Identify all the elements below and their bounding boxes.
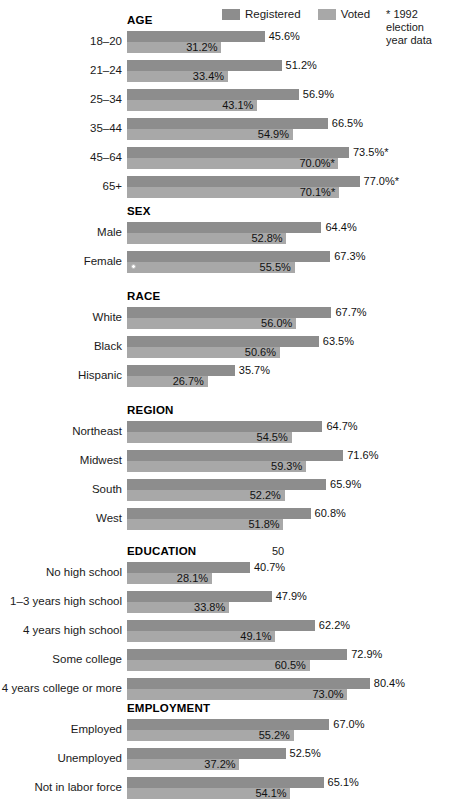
legend-footnote: * 1992 election year data (386, 8, 455, 47)
bar-value-registered: 71.6% (347, 449, 378, 461)
bar-value-voted: 52.2% (250, 489, 281, 501)
legend-swatch-registered-icon (222, 9, 240, 20)
category-label: Midwest (0, 454, 122, 466)
bar-value-registered: 72.9% (351, 648, 382, 660)
category-label: Northeast (0, 425, 122, 437)
bar-value-voted: 31.2% (186, 41, 217, 53)
section-header-education: EDUCATION (127, 545, 196, 557)
bar-value-registered: 63.5% (323, 335, 354, 347)
legend-entry-registered: Registered (222, 8, 301, 20)
section-header-race: RACE (127, 290, 160, 302)
category-label: Hispanic (0, 369, 122, 381)
legend-label-registered: Registered (245, 8, 301, 20)
bar-value-registered: 73.5%* (353, 146, 388, 158)
bar-value-voted: 50.6% (245, 346, 276, 358)
section-header-sex: SEX (127, 205, 151, 217)
category-label: White (0, 311, 122, 323)
bar-value-registered: 67.7% (335, 306, 366, 318)
bar-value-registered: 45.6% (269, 30, 300, 42)
bar-value-voted: 55.5% (260, 261, 291, 273)
bar-value-registered: 60.8% (315, 507, 346, 519)
bar-registered (127, 222, 321, 233)
category-label: 21–24 (0, 64, 122, 76)
section-header-employment: EMPLOYMENT (127, 702, 210, 714)
legend-swatch-voted-icon (318, 9, 336, 20)
category-label: Female (0, 255, 122, 267)
bar-registered (127, 118, 328, 129)
bar-registered (127, 307, 331, 318)
bar-registered (127, 620, 315, 631)
bar-registered (127, 508, 311, 519)
bar-value-voted: 43.1% (222, 99, 253, 111)
bar-value-registered: 65.1% (328, 776, 359, 788)
bar-value-voted: 59.3% (271, 460, 302, 472)
category-label: 35–44 (0, 122, 122, 134)
bar-value-registered: 80.4% (374, 677, 405, 689)
bar-value-voted: 60.5% (275, 659, 306, 671)
bar-value-voted: 26.7% (173, 375, 204, 387)
voting-statistics-chart: Registered Voted * 1992 election year da… (0, 0, 455, 809)
bar-value-voted: 70.1%* (300, 186, 335, 198)
category-label: 4 years high school (0, 624, 122, 636)
bar-value-registered: 66.5% (332, 117, 363, 129)
bar-registered (127, 421, 322, 432)
bar-value-voted: 28.1% (177, 572, 208, 584)
section-header-region: REGION (127, 404, 174, 416)
bar-value-voted: 51.8% (248, 518, 279, 530)
bar-value-registered: 51.2% (286, 59, 317, 71)
category-label: No high school (0, 566, 122, 578)
bar-value-registered: 65.9% (330, 478, 361, 490)
category-label: Male (0, 226, 122, 238)
bar-registered (127, 251, 330, 262)
bar-value-voted: 33.8% (194, 601, 225, 613)
bar-value-registered: 64.7% (326, 420, 357, 432)
category-label: 4 years college or more (0, 682, 122, 694)
category-label: South (0, 483, 122, 495)
bar-value-registered: 64.4% (325, 221, 356, 233)
legend-entry-voted: Voted (318, 8, 370, 20)
bar-registered (127, 89, 299, 100)
bar-registered (127, 336, 319, 347)
bar-registered (127, 649, 347, 660)
bar-value-voted: 33.4% (193, 70, 224, 82)
section-header-age: AGE (127, 14, 153, 26)
category-label: Black (0, 340, 122, 352)
bar-value-registered: 47.9% (276, 590, 307, 602)
category-label: 18–20 (0, 35, 122, 47)
bar-value-voted: 55.2% (259, 729, 290, 741)
scan-artifact-speck (131, 264, 136, 269)
bar-value-voted: 49.1% (240, 630, 271, 642)
legend-label-voted: Voted (341, 8, 370, 20)
bar-registered (127, 450, 343, 461)
bar-value-registered: 40.7% (254, 561, 285, 573)
bar-value-registered: 62.2% (319, 619, 350, 631)
axis-tick-label: 50 (272, 545, 284, 557)
bar-value-registered: 52.5% (290, 747, 321, 759)
bar-value-voted: 54.5% (257, 431, 288, 443)
bar-value-voted: 54.9% (258, 128, 289, 140)
bar-value-voted: 73.0% (312, 688, 343, 700)
category-label: 45–64 (0, 151, 122, 163)
bar-registered (127, 719, 329, 730)
bar-registered (127, 777, 324, 788)
bar-value-voted: 70.0%* (299, 157, 334, 169)
category-label: Unemployed (0, 752, 122, 764)
bar-value-registered: 35.7% (239, 364, 270, 376)
bar-value-registered: 67.3% (334, 250, 365, 262)
bar-value-registered: 56.9% (303, 88, 334, 100)
bar-value-registered: 67.0% (333, 718, 364, 730)
category-label: 25–34 (0, 93, 122, 105)
bar-value-voted: 52.8% (251, 232, 282, 244)
bar-value-voted: 54.1% (255, 787, 286, 799)
category-label: Employed (0, 723, 122, 735)
bar-value-registered: 77.0%* (364, 175, 399, 187)
category-label: West (0, 512, 122, 524)
category-label: Some college (0, 653, 122, 665)
category-label: Not in labor force (0, 781, 122, 793)
bar-registered (127, 479, 326, 490)
bar-value-voted: 37.2% (204, 758, 235, 770)
category-label: 1–3 years high school (0, 595, 122, 607)
category-label: 65+ (0, 180, 122, 192)
bar-value-voted: 56.0% (261, 317, 292, 329)
